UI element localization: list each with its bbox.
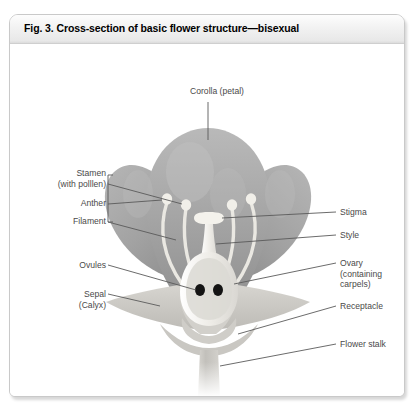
label-corolla-text: Corolla (petal) (190, 86, 244, 96)
label-sepal-line2: (Calyx) (79, 300, 106, 310)
label-corolla: Corolla (petal) (162, 86, 272, 97)
label-flower-stalk-text: Flower stalk (340, 339, 386, 349)
figure-title: Fig. 3. Cross-section of basic flower st… (24, 22, 299, 34)
figure-title-bar: Fig. 3. Cross-section of basic flower st… (10, 15, 404, 44)
label-style-text: Style (340, 230, 359, 240)
label-stamen-line1: Stamen (76, 168, 106, 178)
label-receptacle-text: Receptacle (340, 301, 383, 311)
label-flower-stalk: Flower stalk (340, 339, 405, 350)
label-filament: Filament (18, 216, 106, 227)
label-ovary-line2: (containing (340, 269, 382, 279)
label-ovules: Ovules (18, 260, 106, 271)
label-ovary-line3: carpels) (340, 279, 371, 289)
figure-canvas: Corolla (petal) Stamen (with polllen) An… (10, 44, 404, 397)
stigma-shape (194, 212, 224, 224)
label-receptacle: Receptacle (340, 301, 405, 312)
ovule-right (213, 284, 223, 296)
label-style: Style (340, 230, 405, 241)
label-stamen: Stamen (with polllen) (18, 168, 106, 189)
figure-panel: Fig. 3. Cross-section of basic flower st… (9, 14, 405, 397)
flower-stalk (196, 350, 222, 397)
label-ovary-line1: Ovary (340, 258, 363, 268)
label-ovules-text: Ovules (79, 260, 106, 270)
label-sepal: Sepal (Calyx) (18, 289, 106, 310)
label-ovary: Ovary (containing carpels) (340, 258, 405, 290)
label-anther: Anther (18, 198, 106, 209)
label-filament-text: Filament (73, 216, 106, 226)
label-stigma: Stigma (340, 207, 405, 218)
label-anther-text: Anther (81, 198, 106, 208)
label-stamen-line2: (with polllen) (58, 179, 106, 189)
ovule-left (195, 284, 205, 296)
label-stigma-text: Stigma (340, 207, 367, 217)
label-sepal-line1: Sepal (84, 289, 106, 299)
